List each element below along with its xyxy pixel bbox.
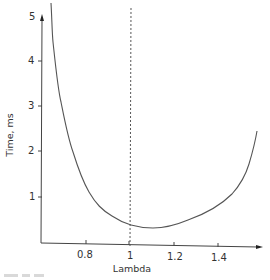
y-tick-label: 5 [29, 11, 35, 22]
x-tick-labels: 0.8 1 1.2 1.4 [77, 249, 227, 263]
x-axis-title: Lambda [113, 263, 151, 274]
caption-fragment [4, 274, 64, 280]
x-tick-label: 1 [127, 250, 133, 261]
x-tick-label: 0.8 [77, 249, 93, 260]
y-tick-label: 4 [28, 55, 34, 66]
x-axis [41, 243, 258, 247]
reference-line-lambda-1 [130, 8, 131, 246]
y-axis [41, 20, 42, 243]
y-tick-label: 1 [29, 191, 35, 202]
x-tick-label: 1.2 [167, 251, 183, 262]
y-axis-arrow-icon [40, 14, 44, 21]
y-axis-title: Time, ms [4, 113, 15, 158]
line-chart: 1 2 3 4 5 0.8 1 1.2 1.4 Lambda Time, ms [0, 0, 270, 280]
y-tick-label: 2 [28, 145, 34, 156]
time-curve [51, 3, 257, 228]
x-tick-label: 1.4 [211, 252, 227, 263]
y-tick-label: 3 [28, 100, 34, 111]
y-tick-labels: 1 2 3 4 5 [28, 11, 35, 202]
x-axis-arrow-icon [256, 245, 263, 249]
